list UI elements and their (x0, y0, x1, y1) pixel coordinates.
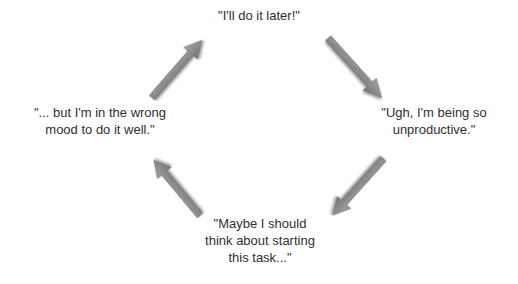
arrow-up-right-icon (145, 34, 208, 103)
arrow-up-left-icon (147, 155, 207, 222)
arrow-down-left-icon (326, 153, 390, 222)
arrow-down-right-icon (322, 32, 389, 103)
cycle-arrows (0, 0, 518, 284)
